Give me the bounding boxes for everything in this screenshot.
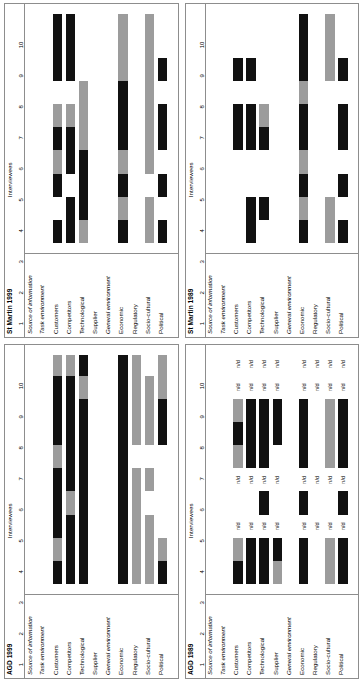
row-label-task-environment: Task environment	[220, 626, 226, 675]
bar-segment	[233, 561, 242, 584]
bar-segment	[246, 58, 255, 81]
plot-area[interactable]	[206, 4, 359, 253]
x-tick-5: 5	[199, 539, 205, 542]
row-label-technological: Technological	[259, 297, 265, 335]
bar-segment	[259, 538, 268, 584]
row-label-column: Source of informationTask environmentCus…	[206, 594, 359, 678]
row-label-competitors: Competitors	[246, 301, 252, 334]
bar-segment	[158, 538, 167, 561]
plot-area[interactable]: n/dn/dn/dn/dn/dn/dn/dn/dn/dn/dn/dn/dn/dn…	[206, 345, 359, 594]
no-data-marker: n/d	[340, 476, 346, 484]
row-label-regulatory: Regulatory	[312, 645, 318, 675]
x-tick-3: 3	[18, 601, 24, 604]
bar-segment	[53, 355, 62, 376]
row-axis-header: Source of information	[27, 616, 33, 675]
bar-segment	[66, 58, 75, 81]
panel-body: Source of informationTask environmentCus…	[25, 4, 178, 337]
x-tick-6: 6	[199, 508, 205, 511]
bar-segment	[325, 14, 334, 58]
x-tick-9: 9	[199, 415, 205, 418]
row-label-column: Source of informationTask environmentCus…	[206, 253, 359, 337]
bar-segment	[145, 14, 154, 81]
row-label-economic: Economic	[299, 307, 305, 334]
bar-segment	[118, 355, 127, 584]
bar-segment	[79, 104, 88, 150]
x-axis-ticks: 12345678910	[14, 345, 24, 678]
bar-segment	[338, 491, 347, 514]
x-tick-5: 5	[18, 539, 24, 542]
no-data-marker: n/d	[261, 476, 267, 484]
chart-panel-st-martin-1989[interactable]: St Martin 1989Interviewees12345678910Sou…	[185, 3, 360, 338]
no-data-marker: n/d	[235, 383, 241, 391]
no-data-marker: n/d	[248, 476, 254, 484]
row-label-regulatory: Regulatory	[312, 304, 318, 334]
row-label-political: Political	[158, 313, 164, 334]
x-tick-8: 8	[18, 105, 24, 108]
bar-segment	[246, 197, 255, 243]
x-tick-10: 10	[18, 383, 24, 390]
row-label-socio-cultural: Socio-cultural	[145, 638, 151, 676]
row-label-general-environment: General environment	[286, 617, 292, 675]
bar-segment	[299, 491, 308, 514]
bar-segment	[145, 81, 154, 104]
row-label-supplier: Supplier	[273, 652, 279, 675]
no-data-marker: n/d	[314, 476, 320, 484]
bar-segment	[132, 515, 141, 538]
bar-segment	[118, 150, 127, 173]
bar-segment	[246, 104, 255, 150]
chart-panel-st-martin-1999[interactable]: St Martin 1999Interviewees12345678910Sou…	[4, 3, 179, 338]
row-axis-header: Source of information	[207, 275, 213, 334]
bar-segment	[66, 197, 75, 243]
chart-panel-agd-1989[interactable]: AGD 1989Interviewees12345678910Source of…	[185, 344, 360, 679]
bar-segment	[66, 127, 75, 173]
no-data-marker: n/d	[301, 522, 307, 530]
row-label-column: Source of informationTask environmentCus…	[25, 253, 178, 337]
bar-segment	[132, 468, 141, 491]
plot-area[interactable]	[25, 4, 178, 253]
row-label-task-environment: Task environment	[220, 285, 226, 334]
bar-segment	[299, 174, 308, 197]
x-axis-ticks: 12345678910	[195, 345, 205, 678]
bar-segment	[66, 491, 75, 514]
bar-segment	[325, 197, 334, 243]
row-label-task-environment: Task environment	[39, 285, 45, 334]
bar-segment	[79, 376, 88, 399]
figure-rotation-wrapper: AGD 1999Interviewees12345678910Source of…	[0, 0, 362, 682]
bar-segment	[79, 220, 88, 243]
x-tick-2: 2	[199, 291, 205, 294]
bar-segment	[273, 538, 282, 561]
row-label-competitors: Competitors	[66, 642, 72, 675]
bar-segment	[132, 399, 141, 445]
x-tick-2: 2	[18, 291, 24, 294]
bar-segment	[233, 104, 242, 150]
axis-label-interviewees: Interviewees	[187, 162, 194, 197]
bar-segment	[299, 150, 308, 173]
x-tick-8: 8	[199, 446, 205, 449]
no-data-marker: n/d	[340, 360, 346, 368]
bar-segment	[53, 127, 62, 150]
no-data-marker: n/d	[314, 522, 320, 530]
panel-title: AGD 1989	[187, 643, 194, 675]
no-data-marker: n/d	[248, 360, 254, 368]
x-tick-10: 10	[18, 42, 24, 49]
bar-segment	[53, 538, 62, 561]
row-label-technological: Technological	[79, 638, 85, 676]
bar-segment	[338, 104, 347, 150]
plot-area[interactable]	[25, 345, 178, 594]
x-tick-4: 4	[199, 229, 205, 232]
bar-segment	[158, 220, 167, 243]
bar-segment	[53, 376, 62, 445]
bar-segment	[118, 220, 127, 243]
x-tick-1: 1	[18, 663, 24, 666]
no-data-marker: n/d	[274, 383, 280, 391]
x-tick-1: 1	[199, 663, 205, 666]
panel-header: AGD 1999Interviewees12345678910	[5, 345, 25, 678]
chart-panel-agd-1999[interactable]: AGD 1999Interviewees12345678910Source of…	[4, 344, 179, 679]
x-tick-7: 7	[18, 136, 24, 139]
bar-segment	[66, 515, 75, 584]
bar-segment	[145, 104, 154, 127]
row-label-economic: Economic	[118, 307, 124, 334]
bar-segment	[53, 445, 62, 468]
bar-segment	[338, 220, 347, 243]
no-data-marker: n/d	[235, 476, 241, 484]
